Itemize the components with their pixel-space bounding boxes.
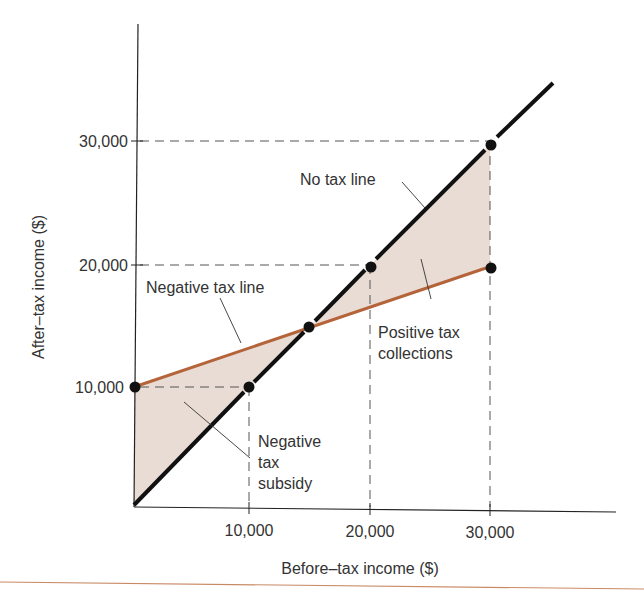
x-tick-30000: 30,000 <box>466 524 515 541</box>
subsidy-label-2: tax <box>258 454 279 471</box>
no-tax-line-label: No tax line <box>300 171 376 188</box>
negative-tax-line-label: Negative tax line <box>146 279 264 296</box>
positive-tax-label-1: Positive tax <box>378 324 460 341</box>
y-tick-10000: 10,000 <box>75 379 124 396</box>
subsidy-label-3: subsidy <box>258 475 312 492</box>
y-tick-30000: 30,000 <box>79 133 128 150</box>
x-axis-title: Before–tax income ($) <box>281 560 438 577</box>
y-tick-20000: 20,000 <box>79 257 128 274</box>
y-axis-title: After–tax income ($) <box>30 215 47 359</box>
x-axis <box>134 507 616 512</box>
negative-income-tax-chart: 30,000 20,000 10,000 10,000 20,000 30,00… <box>0 0 644 607</box>
subsidy-label-1: Negative <box>258 433 321 450</box>
bottom-rule <box>0 582 644 589</box>
x-tick-20000: 20,000 <box>346 523 395 540</box>
x-tick-10000: 10,000 <box>225 522 274 539</box>
positive-tax-label-2: collections <box>378 345 453 362</box>
